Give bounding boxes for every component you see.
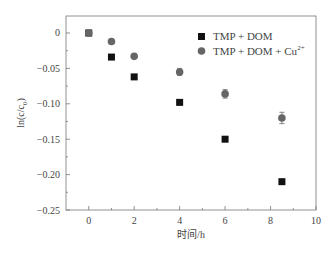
x-tick-label: 4 bbox=[177, 215, 182, 226]
y-axis-ticks: 0−0.05−0.10−0.15−0.20−0.25 bbox=[37, 27, 70, 215]
circle-marker bbox=[130, 53, 138, 61]
y-tick-label: −0.15 bbox=[37, 134, 60, 145]
y-tick-label: −0.10 bbox=[37, 98, 60, 109]
legend-circle-marker-icon bbox=[198, 47, 206, 55]
square-marker bbox=[176, 99, 183, 106]
circle-marker bbox=[176, 68, 184, 76]
square-marker bbox=[222, 136, 229, 143]
legend-label-series-2: TMP + DOM + Cu2+ bbox=[213, 44, 305, 57]
square-marker bbox=[278, 178, 285, 185]
square-marker bbox=[131, 73, 138, 80]
legend-label-series-1: TMP + DOM bbox=[213, 30, 273, 42]
x-tick-label: 6 bbox=[223, 215, 228, 226]
circle-marker bbox=[108, 38, 116, 46]
y-tick-label: −0.20 bbox=[37, 169, 60, 180]
x-axis-ticks: 0246810 bbox=[86, 206, 321, 226]
legend: TMP + DOM TMP + DOM + Cu2+ bbox=[198, 30, 305, 57]
chart-container: 0246810 0−0.05−0.10−0.15−0.20−0.25 TMP +… bbox=[0, 0, 335, 258]
x-tick-label: 8 bbox=[268, 215, 273, 226]
x-axis-label: 时间/h bbox=[177, 228, 205, 240]
x-tick-label: 2 bbox=[132, 215, 137, 226]
y-tick-label: 0 bbox=[55, 27, 60, 38]
scatter-plot: 0246810 0−0.05−0.10−0.15−0.20−0.25 TMP +… bbox=[0, 0, 335, 258]
legend-square-marker-icon bbox=[198, 33, 205, 40]
square-marker bbox=[108, 54, 115, 61]
circle-marker bbox=[278, 114, 286, 122]
x-tick-label: 0 bbox=[86, 215, 91, 226]
y-tick-label: −0.05 bbox=[37, 63, 60, 74]
y-tick-label: −0.25 bbox=[37, 205, 60, 216]
x-tick-label: 10 bbox=[311, 215, 321, 226]
circle-marker bbox=[85, 29, 93, 37]
circle-marker bbox=[221, 90, 229, 98]
y-axis-label: ln(c/c0) bbox=[15, 98, 29, 128]
